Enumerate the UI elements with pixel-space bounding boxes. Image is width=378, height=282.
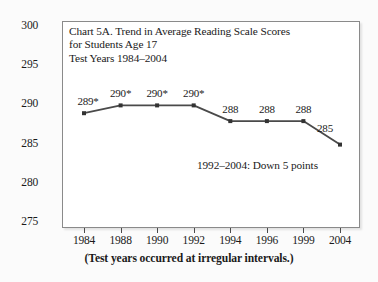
chart-title-line-3: Test Years 1984–2004 — [69, 52, 359, 65]
y-tick-label: 300 — [8, 20, 38, 32]
x-tick-label: 1996 — [247, 234, 287, 246]
x-tick-mark — [157, 228, 158, 233]
y-tick-label: 295 — [8, 59, 38, 71]
data-point-marker — [192, 103, 196, 107]
data-value-label: 285 — [302, 123, 348, 134]
data-point-marker — [338, 143, 342, 147]
chart-title: Chart 5A. Trend in Average Reading Scale… — [69, 25, 359, 65]
chart-container: 275280285290295300 Chart 5A. Trend in Av… — [0, 0, 378, 282]
axis-caption: (Test years occurred at irregular interv… — [0, 252, 378, 265]
data-value-label: 288 — [280, 104, 326, 115]
x-tick-mark — [267, 228, 268, 233]
y-tick-label: 290 — [8, 98, 38, 110]
x-tick-mark — [230, 228, 231, 233]
x-tick-mark — [121, 228, 122, 233]
x-tick-mark — [340, 228, 341, 233]
y-axis: 275280285290295300 — [20, 0, 52, 282]
x-tick-label: 2004 — [320, 234, 360, 246]
x-tick-mark — [194, 228, 195, 233]
data-point-marker — [82, 111, 86, 115]
x-tick-mark — [303, 228, 304, 233]
data-point-marker — [119, 103, 123, 107]
x-tick-label: 1994 — [210, 234, 250, 246]
data-value-label: 290* — [171, 88, 217, 99]
data-point-marker — [155, 103, 159, 107]
x-tick-label: 1990 — [137, 234, 177, 246]
y-tick-label: 275 — [8, 216, 38, 228]
trend-annotation: 1992–2004: Down 5 points — [197, 159, 318, 171]
x-tick-label: 1988 — [101, 234, 141, 246]
chart-title-line-2: for Students Age 17 — [69, 38, 359, 51]
data-point-marker — [265, 119, 269, 123]
x-tick-label: 1984 — [64, 234, 104, 246]
chart-title-line-1: Chart 5A. Trend in Average Reading Scale… — [69, 25, 359, 38]
x-tick-label: 1992 — [174, 234, 214, 246]
x-axis: 19841988199019921994199619992004 — [62, 229, 360, 249]
x-tick-label: 1999 — [283, 234, 323, 246]
y-tick-label: 285 — [8, 138, 38, 150]
plot-area: Chart 5A. Trend in Average Reading Scale… — [62, 21, 360, 228]
x-tick-mark — [84, 228, 85, 233]
data-point-marker — [228, 119, 232, 123]
y-tick-label: 280 — [8, 177, 38, 189]
